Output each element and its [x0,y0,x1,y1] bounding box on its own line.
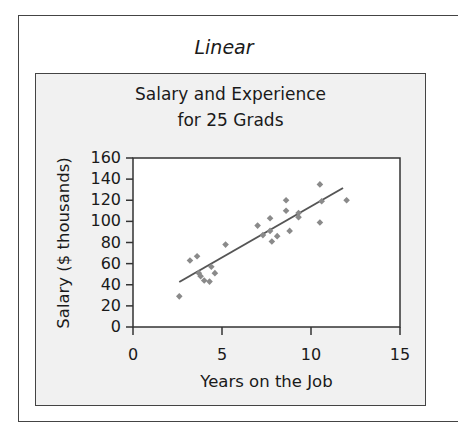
y-tick-label: 40 [101,277,121,293]
y-tick-label: 140 [90,171,121,187]
y-tick-label: 80 [101,235,121,251]
y-tick-label: 0 [111,319,121,335]
x-axis-ticks [133,327,400,335]
x-tick-label: 10 [291,345,331,364]
x-tick-label: 5 [202,345,242,364]
y-axis-ticks [126,158,133,327]
plot-area [133,158,400,327]
y-tick-label: 100 [90,213,121,229]
y-axis-label: Salary ($ thousands) [54,157,73,328]
y-tick-label: 120 [90,192,121,208]
x-tick-label: 0 [113,345,153,364]
y-tick-label: 60 [101,256,121,272]
y-tick-label: 20 [101,298,121,314]
x-axis-label: Years on the Job [133,372,400,391]
x-tick-label: 15 [380,345,420,364]
y-tick-label: 160 [90,150,121,166]
